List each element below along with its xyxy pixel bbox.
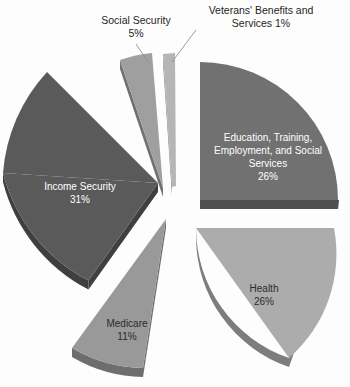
pie-slice-veterans[interactable] [163,53,176,196]
pie-slice-education-value: 26% [258,171,278,182]
pie-slice-education[interactable]: Education, Training, Employment, and Soc… [200,62,339,209]
pie-slice-education-side [200,200,339,209]
pie-slice-medicare-value: 11% [117,331,136,342]
pie-slice-education-label-l2: Employment, and Social [214,145,322,156]
pie-slice-veterans-top [163,53,176,187]
pie-chart-svg: Income Security 31% Education, Training,… [0,0,350,387]
external-label-social-security: Social Security 5% [88,14,184,40]
pie-slice-education-label-l3: Services [249,158,287,169]
pie-chart-figure: Income Security 31% Education, Training,… [0,0,350,387]
external-label-veterans: Veterans' Benefits and Services 1% [196,4,326,30]
pie-slice-education-label-l1: Education, Training, [224,132,312,143]
pie-slice-health-value: 26% [254,296,274,307]
pie-slice-medicare-label: Medicare [106,318,148,329]
pie-slice-income-security-value: 31% [70,194,90,205]
pie-slice-income-security-label: Income Security [44,181,116,192]
pie-slice-health-label: Health [250,283,279,294]
pie-slice-health[interactable]: Health 26% [196,228,336,367]
